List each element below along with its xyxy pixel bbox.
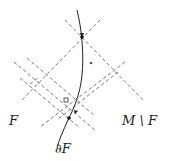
dashed-line-4 (57, 72, 118, 120)
arrow-icon (74, 110, 78, 114)
dashed-line-2 (22, 20, 100, 100)
dashed-line-1 (65, 20, 143, 100)
dashed-line-5 (14, 62, 95, 130)
diagram-canvas: F M \ F ∂F (0, 0, 171, 161)
small-circle-marker (90, 62, 93, 65)
top-dot-marker (80, 35, 84, 39)
cross-marker-icon (64, 98, 68, 102)
dashed-line-6 (27, 58, 95, 116)
label-boundary: ∂F (55, 141, 72, 156)
boundary-curve (57, 10, 83, 148)
label-F: F (8, 113, 19, 128)
label-M-minus-F: M \ F (121, 113, 158, 128)
lower-dot-marker (67, 116, 71, 120)
